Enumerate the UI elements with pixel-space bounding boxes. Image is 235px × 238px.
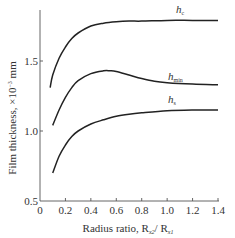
x-tick-label: 1.4 (211, 204, 225, 216)
series-h-s-line (53, 110, 218, 173)
curve-labels: hchminhs (168, 3, 185, 106)
series-label-h-c: hc (176, 3, 185, 16)
chart: 00.20.40.60.81.01.21.40.51.01.5 hchminhs… (0, 0, 235, 238)
x-tick-label: 0.2 (59, 204, 73, 216)
curves (50, 20, 218, 173)
x-tick-label: 0.8 (135, 204, 149, 216)
x-tick-label: 1.0 (160, 204, 174, 216)
ticks: 00.20.40.60.81.01.21.40.51.01.5 (24, 55, 225, 216)
x-tick-label: 0.6 (109, 204, 123, 216)
x-tick-label: 0.4 (84, 204, 98, 216)
y-tick-label: 1.0 (24, 125, 38, 137)
y-tick-label: 1.5 (24, 55, 38, 67)
series-h-c-line (50, 20, 218, 87)
x-axis-title: Radius ratio, Rx2/ Rx1 (83, 222, 174, 235)
series-h-min-line (53, 71, 218, 126)
y-axis-title: Film thickness, ×10−3 mm (6, 61, 18, 175)
axes (40, 10, 219, 201)
y-tick-label: 0.5 (24, 195, 38, 207)
series-label-h-s: hs (168, 93, 177, 106)
x-tick-label: 0 (37, 204, 43, 216)
series-label-h-min: hmin (168, 70, 183, 83)
x-tick-label: 1.2 (186, 204, 200, 216)
